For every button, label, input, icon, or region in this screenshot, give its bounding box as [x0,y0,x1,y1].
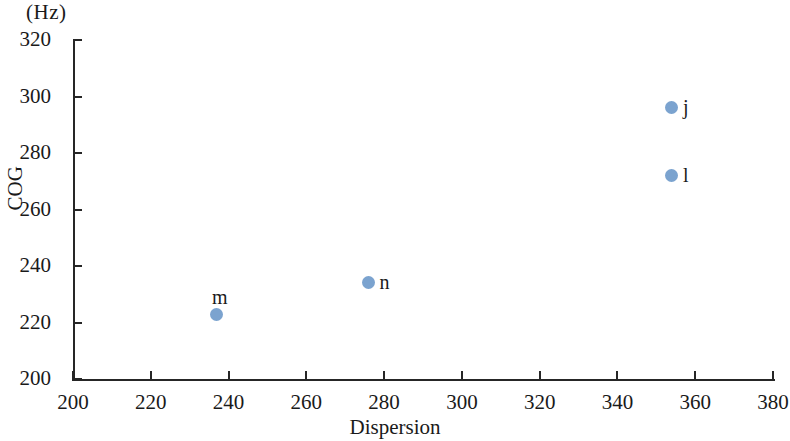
y-axis-tick [73,265,82,267]
y-axis-tick-label: 320 [0,29,51,50]
x-axis-tick-label: 340 [577,392,657,413]
y-axis-tick [73,322,82,324]
x-axis-tick-label: 320 [500,392,580,413]
x-axis-tick [616,371,618,381]
x-axis-tick-label: 220 [111,392,191,413]
plot-area: 2002202402602803003202002202402602803003… [73,40,773,381]
y-axis-tick [73,378,82,380]
data-point-label-m: m [212,287,228,307]
y-axis-tick-label: 220 [0,312,51,333]
y-axis-tick [73,96,82,98]
y-axis-tick [73,209,82,211]
y-axis-tick [73,152,82,154]
x-axis-tick-label: 200 [33,392,113,413]
x-axis-line [73,379,775,381]
x-axis-tick [383,371,385,381]
data-point-j [665,101,678,114]
x-axis-tick [461,371,463,381]
x-axis-tick [72,371,74,381]
y-axis-tick-label: 300 [0,86,51,107]
x-axis-tick-label: 360 [655,392,735,413]
data-point-m [210,308,223,321]
x-axis-tick [305,371,307,381]
data-point-label-l: l [683,165,689,185]
x-axis-tick [772,371,774,381]
x-axis-tick [694,371,696,381]
y-axis-line [73,40,75,381]
y-axis-tick-label: 280 [0,142,51,163]
data-point-label-j: j [683,97,689,117]
x-axis-title: Dispersion [0,417,790,438]
x-axis-tick [539,371,541,381]
data-point-l [665,169,678,182]
x-axis-tick-label: 260 [266,392,346,413]
x-axis-tick-label: 300 [422,392,502,413]
x-axis-tick-label: 280 [344,392,424,413]
y-axis-tick-label: 240 [0,255,51,276]
y-axis-tick-label: 200 [0,368,51,389]
y-axis-tick-label: 260 [0,199,51,220]
scatter-plot-figure: (Hz) COG Dispersion 20022024026028030032… [0,0,790,441]
x-axis-tick [150,371,152,381]
data-point-label-n: n [380,272,390,292]
y-axis-unit-label: (Hz) [26,2,66,23]
x-axis-tick-label: 240 [189,392,269,413]
x-axis-tick [228,371,230,381]
data-point-n [362,276,375,289]
x-axis-tick-label: 380 [733,392,790,413]
y-axis-tick [73,39,82,41]
